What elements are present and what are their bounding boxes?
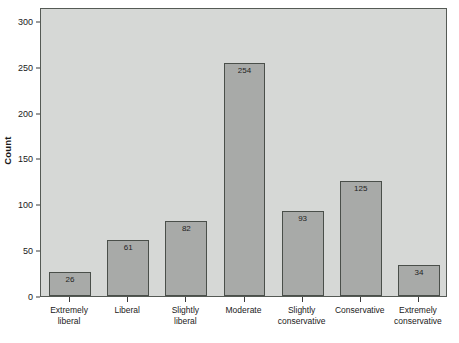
- x-axis-tick-mark: [127, 297, 128, 302]
- plot-inner: 2661822549312534: [41, 9, 446, 296]
- bar-value-label: 26: [50, 275, 90, 284]
- x-axis-tick-label: Slightlyconservative: [278, 305, 326, 327]
- x-axis-tick-mark: [302, 297, 303, 302]
- y-axis-tick-label: 0: [28, 292, 33, 302]
- bar: 61: [107, 240, 149, 296]
- x-axis-tick-label: Conservative: [335, 305, 385, 316]
- x-axis-tick-label-line2: liberal: [50, 316, 88, 327]
- x-axis-tick-label-line1: Slightly: [288, 305, 315, 315]
- x-axis-tick-label: Extremelyliberal: [50, 305, 88, 327]
- x-axis-tick-label-line2: liberal: [172, 316, 199, 327]
- bar: 125: [340, 181, 382, 296]
- bar-value-label: 254: [225, 66, 265, 75]
- y-axis-tick-label: 150: [18, 154, 33, 164]
- x-axis-tick-label-line1: Extremely: [50, 305, 88, 315]
- x-axis-tick-label-line1: Moderate: [226, 305, 262, 315]
- bar: 93: [282, 211, 324, 296]
- bar-value-label: 93: [283, 214, 323, 223]
- bar-chart: Count 050100150200250300 266182254931253…: [0, 0, 459, 343]
- bar-value-label: 61: [108, 243, 148, 252]
- x-axis-tick-label: Slightlyliberal: [172, 305, 199, 327]
- x-axis-tick-label-line1: Slightly: [172, 305, 199, 315]
- bar: 82: [165, 221, 207, 296]
- plot-area: 2661822549312534: [40, 8, 447, 297]
- bar: 254: [224, 63, 266, 296]
- x-axis-tick-label-line1: Extremely: [399, 305, 437, 315]
- y-axis-tick-label: 100: [18, 200, 33, 210]
- y-axis-tick-label: 250: [18, 63, 33, 73]
- x-axis-tick-mark: [244, 297, 245, 302]
- y-axis-ticks: 050100150200250300: [0, 0, 40, 343]
- x-axis-tick-label-line1: Conservative: [335, 305, 385, 315]
- bar: 34: [398, 265, 440, 296]
- x-axis-tick-label: Liberal: [114, 305, 140, 316]
- bar-value-label: 82: [166, 224, 206, 233]
- x-axis-tick-label-line1: Liberal: [114, 305, 140, 315]
- x-axis-tick-mark: [69, 297, 70, 302]
- x-axis-tick-label: Moderate: [226, 305, 262, 316]
- y-axis-tick-label: 50: [23, 246, 33, 256]
- x-axis-tick-label-line2: conservative: [394, 316, 442, 327]
- x-axis-tick-label-line2: conservative: [278, 316, 326, 327]
- x-axis-ticks: ExtremelyliberalLiberalSlightlyliberalMo…: [40, 297, 447, 343]
- y-axis-tick-label: 300: [18, 17, 33, 27]
- x-axis-tick-mark: [360, 297, 361, 302]
- bar-value-label: 125: [341, 184, 381, 193]
- x-axis-tick-mark: [185, 297, 186, 302]
- x-axis-tick-label: Extremelyconservative: [394, 305, 442, 327]
- y-axis-tick-label: 200: [18, 109, 33, 119]
- bar-value-label: 34: [399, 268, 439, 277]
- bar: 26: [49, 272, 91, 296]
- x-axis-tick-mark: [418, 297, 419, 302]
